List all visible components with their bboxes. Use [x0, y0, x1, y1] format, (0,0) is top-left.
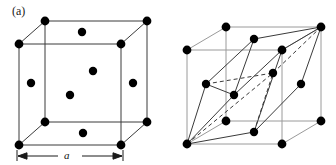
- atom-corner-back-bottom-left: [222, 117, 231, 126]
- atom-corner-front-bottom-right: [278, 140, 287, 149]
- atom-corner-front-bottom-left: [183, 140, 192, 149]
- edge-bottom-to-front-tr-corner: [254, 50, 282, 132]
- panel-b-diagram: [0, 0, 336, 165]
- edge-front-br-back-br: [282, 121, 321, 144]
- atom-face-left: [202, 80, 210, 88]
- atom-face-back: [269, 69, 277, 77]
- atom-corner-front-top-right: [278, 46, 287, 55]
- atom-corner-back-top-left: [222, 23, 231, 32]
- dashed-origin-to-back-center: [187, 73, 273, 144]
- edge-front-to-top: [234, 39, 254, 95]
- edge-left-to-front: [206, 84, 234, 95]
- crystal-structure-figure: (a) a: [0, 0, 336, 165]
- edge-left-to-top-center: [206, 39, 254, 84]
- edge-bottom-to-right-center: [254, 84, 301, 132]
- atom-face-right: [297, 80, 305, 88]
- atom-corner-back-top-right: [317, 23, 326, 32]
- atom-corner-back-bottom-right: [317, 117, 326, 126]
- atom-corner-front-top-left: [183, 46, 192, 55]
- panel-b-rhombohedral-cell: (b): [168, 0, 336, 165]
- atom-face-front: [230, 91, 238, 99]
- atom-face-top: [250, 35, 258, 43]
- edge-right-to-apex: [301, 27, 321, 84]
- atom-face-bottom: [250, 128, 258, 136]
- edge-front-tl-back-tl: [187, 27, 226, 50]
